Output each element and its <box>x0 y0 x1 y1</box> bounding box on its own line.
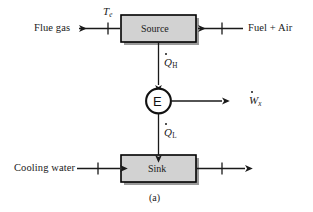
cooling-water-label: Cooling water <box>14 163 75 174</box>
temperature-subscript: e <box>109 11 112 19</box>
heat-high-subscript: H <box>172 62 177 70</box>
flue-gas-label: Flue gas <box>34 23 70 34</box>
cooling-water-inlet-stream <box>77 163 120 175</box>
overdot-icon <box>251 91 253 93</box>
figure-energy-flow-diagram: Flue gas Fuel + Air Source Sink Cooling … <box>0 0 313 212</box>
heat-high-base-wrap: Q <box>164 57 172 68</box>
cooling-water-outlet-stream <box>197 163 245 175</box>
heat-low-base: Q <box>164 126 172 138</box>
sink-block-label: Sink <box>148 164 166 174</box>
heat-high-base: Q <box>164 56 172 68</box>
figure-caption: (a) <box>149 193 160 203</box>
heat-high-symbol: QH <box>164 57 177 68</box>
flue-gas-stream <box>79 23 120 35</box>
heat-low-symbol: QL <box>164 127 176 138</box>
temperature-symbol: Te <box>103 6 112 17</box>
work-base: W <box>249 94 258 106</box>
work-subscript: x <box>258 100 261 108</box>
heat-low-base-wrap: Q <box>164 127 172 138</box>
work-base-wrap: W <box>249 95 258 106</box>
fuel-air-stream <box>198 23 243 35</box>
fuel-air-label: Fuel + Air <box>248 23 292 34</box>
work-symbol: Wx <box>249 95 261 106</box>
heat-low-subscript: L <box>172 132 176 140</box>
engine-label: E <box>153 94 162 109</box>
source-block-label: Source <box>141 24 169 34</box>
